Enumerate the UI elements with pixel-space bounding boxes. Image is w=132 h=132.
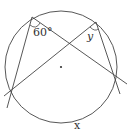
arc-label-x: x <box>74 119 81 132</box>
line-a-c <box>7 17 32 108</box>
circle-diagram: 60° y x <box>0 0 132 132</box>
center-dot <box>60 66 62 68</box>
angle-label-y: y <box>86 30 94 43</box>
angle-label-60: 60° <box>33 26 53 39</box>
